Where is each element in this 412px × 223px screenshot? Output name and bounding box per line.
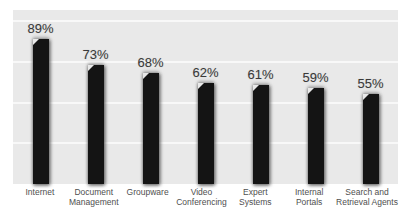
bar-bevel-corner — [363, 94, 369, 100]
category-label: DocumentManagement — [67, 187, 121, 207]
chart-column: 62% — [178, 10, 233, 184]
category-label: Groupware — [121, 187, 175, 207]
category-label-line: Conferencing — [175, 197, 229, 207]
chart-column: 55% — [343, 10, 398, 184]
category-label-line: Portals — [282, 197, 336, 207]
bar-value-label: 61% — [247, 67, 273, 82]
bar-value-label: 89% — [27, 21, 53, 36]
category-label-line: Management — [67, 197, 121, 207]
bar-bevel-corner — [308, 88, 314, 94]
category-label-line: Expert — [228, 187, 282, 197]
bar — [88, 65, 104, 184]
bar — [253, 85, 269, 184]
bar-value-label: 73% — [82, 47, 108, 62]
category-label-line: Video — [175, 187, 229, 197]
chart-column: 59% — [288, 10, 343, 184]
chart-column: 89% — [13, 10, 68, 184]
bar — [198, 83, 214, 184]
category-label: ExpertSystems — [228, 187, 282, 207]
bar-value-label: 62% — [192, 65, 218, 80]
category-label: Internet — [13, 187, 67, 207]
bar — [308, 88, 324, 184]
plot-area: 89%73%68%62%61%59%55% — [13, 10, 398, 184]
bar — [143, 73, 159, 184]
chart-column: 61% — [233, 10, 288, 184]
category-label-line: Search and — [336, 187, 398, 197]
category-label: Search andRetrieval Agents — [336, 187, 398, 207]
category-label: InternalPortals — [282, 187, 336, 207]
bar-value-label: 59% — [302, 70, 328, 85]
bar-bevel-corner — [198, 83, 204, 89]
category-label-line: Document — [67, 187, 121, 197]
chart-column: 73% — [68, 10, 123, 184]
bar — [363, 94, 379, 184]
bar-bevel-corner — [33, 39, 39, 45]
category-label-line: Groupware — [121, 187, 175, 197]
bar-value-label: 55% — [357, 76, 383, 91]
category-label-line: Internal — [282, 187, 336, 197]
category-label-line: Internet — [13, 187, 67, 197]
bar-bevel-corner — [253, 85, 259, 91]
bar-chart: 89%73%68%62%61%59%55% InternetDocumentMa… — [0, 0, 412, 223]
bar-value-label: 68% — [137, 55, 163, 70]
category-label-line: Systems — [228, 197, 282, 207]
bar-bevel-corner — [143, 73, 149, 79]
chart-column: 68% — [123, 10, 178, 184]
category-label-line: Retrieval Agents — [336, 197, 398, 207]
category-label: VideoConferencing — [175, 187, 229, 207]
bar-bevel-corner — [88, 65, 94, 71]
bar — [33, 39, 49, 184]
category-labels-row: InternetDocumentManagementGroupwareVideo… — [13, 187, 398, 207]
